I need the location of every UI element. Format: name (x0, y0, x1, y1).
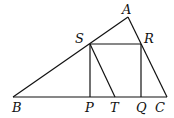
label-R: R (143, 31, 154, 46)
label-S: S (75, 31, 84, 46)
label-B: B (11, 100, 22, 115)
label-A: A (121, 2, 131, 17)
segment-AC (128, 17, 167, 97)
label-P: P (84, 100, 94, 115)
label-C: C (155, 100, 165, 115)
segment-ST (90, 44, 115, 97)
geometry-diagram: A S R B P T Q C (0, 0, 174, 118)
segment-AB (13, 17, 128, 97)
label-Q: Q (136, 100, 147, 115)
label-T: T (110, 100, 120, 115)
